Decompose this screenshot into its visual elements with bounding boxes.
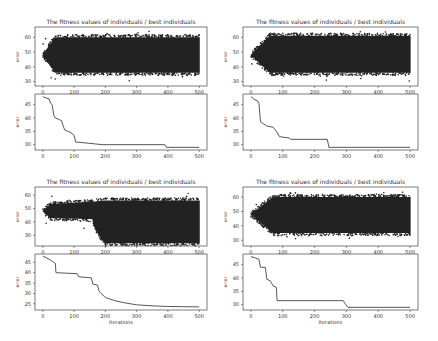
y-tick-label: 35 [233, 288, 239, 294]
y-tick-label: 30 [233, 141, 239, 147]
x-tick-label: 0 [41, 153, 44, 159]
x-tick-label: 100 [69, 153, 79, 159]
x-tick-label: 500 [194, 313, 204, 319]
y-tick-label: 30 [233, 301, 239, 307]
x-tick-label: 100 [69, 313, 79, 319]
best-individual-line [251, 257, 410, 308]
x-tick-label: 400 [373, 313, 383, 319]
scatter-points [250, 31, 410, 82]
y-axis-label: error [223, 276, 228, 287]
x-tick-label: 100 [278, 313, 288, 319]
x-tick-label: 500 [194, 153, 204, 159]
best-individual-line [251, 97, 410, 148]
figure-bottom-right: 010020030040050030405060errorThe fitness… [219, 160, 438, 341]
y-tick-label: 30 [233, 237, 239, 243]
chart-bottom-right: 010020030040050030405060errorThe fitness… [219, 160, 438, 341]
x-tick-label: 100 [278, 153, 288, 159]
y-tick-label: 40 [25, 64, 31, 70]
x-axis-label: Iterations [109, 319, 133, 325]
chart-title: The fitness values of individuals / best… [255, 18, 405, 25]
y-tick-label: 35 [25, 280, 31, 286]
scatter-points [42, 193, 199, 247]
y-axis-label: error [15, 116, 20, 127]
x-tick-label: 300 [342, 313, 352, 319]
y-tick-label: 60 [233, 34, 239, 40]
figure-top-right: 010020030040050030405060errorThe fitness… [219, 0, 438, 160]
y-axis-label: error [223, 211, 228, 222]
y-tick-label: 30 [25, 78, 31, 84]
y-tick-label: 30 [25, 290, 31, 296]
x-tick-label: 300 [342, 153, 352, 159]
y-tick-label: 50 [233, 49, 239, 55]
best-individual-line [43, 97, 199, 148]
x-tick-label: 0 [249, 313, 252, 319]
y-tick-label: 25 [25, 301, 31, 307]
figure-bottom-left: 010020030040050030405060errorThe fitness… [0, 160, 219, 341]
y-tick-label: 30 [25, 141, 31, 147]
axes-frame [35, 94, 207, 150]
chart-bottom-left: 010020030040050030405060errorThe fitness… [0, 160, 219, 341]
y-tick-label: 50 [25, 49, 31, 55]
y-tick-label: 40 [25, 115, 31, 121]
y-tick-label: 35 [233, 128, 239, 134]
chart-title: The fitness values of individuals / best… [45, 18, 195, 25]
scatter-points [250, 191, 411, 239]
y-tick-label: 45 [25, 259, 31, 265]
y-tick-label: 40 [233, 64, 239, 70]
x-tick-label: 0 [249, 153, 252, 159]
y-axis-label: error [223, 116, 228, 127]
chart-title: The fitness values of individuals / best… [255, 178, 405, 185]
x-tick-label: 0 [41, 313, 44, 319]
x-tick-label: 300 [132, 153, 142, 159]
y-tick-label: 50 [25, 205, 31, 211]
axes-frame [243, 94, 418, 150]
y-tick-label: 40 [233, 275, 239, 281]
chart-top-right: 010020030040050030405060errorThe fitness… [219, 0, 438, 164]
y-axis-label: error [15, 276, 20, 287]
y-tick-label: 35 [25, 128, 31, 134]
y-tick-label: 50 [233, 208, 239, 214]
y-tick-label: 40 [233, 115, 239, 121]
chart-top-left: 010020030040050030405060errorThe fitness… [0, 0, 219, 164]
y-tick-label: 45 [25, 101, 31, 107]
x-tick-label: 500 [405, 153, 415, 159]
y-tick-label: 30 [233, 78, 239, 84]
y-axis-label: error [223, 51, 228, 62]
y-axis-label: error [15, 211, 20, 222]
x-tick-label: 500 [405, 313, 415, 319]
y-tick-label: 60 [25, 192, 31, 198]
x-axis-label: Iterations [319, 319, 343, 325]
y-tick-label: 45 [233, 101, 239, 107]
x-tick-label: 400 [163, 153, 173, 159]
x-tick-label: 400 [163, 313, 173, 319]
scatter-points [42, 31, 200, 82]
y-tick-label: 60 [233, 194, 239, 200]
y-tick-label: 40 [233, 223, 239, 229]
x-tick-label: 400 [373, 153, 383, 159]
y-tick-label: 60 [25, 34, 31, 40]
y-tick-label: 30 [25, 232, 31, 238]
y-tick-label: 40 [25, 269, 31, 275]
figure-top-left: 010020030040050030405060errorThe fitness… [0, 0, 219, 160]
best-individual-line [43, 256, 199, 307]
y-tick-label: 40 [25, 219, 31, 225]
y-tick-label: 45 [233, 261, 239, 267]
chart-title: The fitness values of individuals / best… [45, 178, 195, 185]
x-tick-label: 300 [132, 313, 142, 319]
y-axis-label: error [15, 51, 20, 62]
axes-frame [243, 254, 418, 310]
